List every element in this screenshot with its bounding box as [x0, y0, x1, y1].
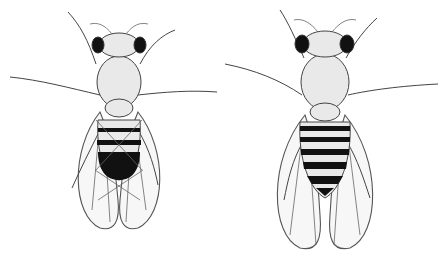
head [99, 33, 139, 57]
eye-left [92, 37, 104, 53]
eye-right [134, 37, 146, 53]
female-fly [225, 10, 438, 249]
eye-left [295, 35, 309, 53]
thorax [301, 54, 349, 110]
illustration [0, 0, 447, 262]
eye-right [340, 35, 354, 53]
fly-drawings [0, 0, 447, 262]
male-fly [10, 12, 217, 229]
